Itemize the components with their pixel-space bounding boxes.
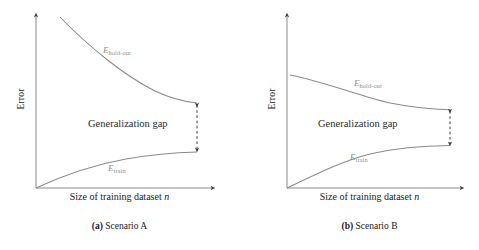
curve-label-train-subscript: train: [356, 156, 368, 163]
curve-label-hold-out-subscript: hold-out: [360, 82, 382, 89]
panel-scenario-b: Error Size of training dataset n Ehold-o…: [240, 0, 479, 250]
panel-caption-a-text: Scenario A: [105, 221, 147, 231]
curve-train: [287, 146, 450, 189]
curve-label-hold-out: Ehold-out: [354, 78, 382, 88]
curve-label-hold-out-subscript: hold-out: [109, 49, 131, 56]
panel-caption-b-text: Scenario B: [356, 221, 398, 231]
panel-caption-b-tag: (b): [342, 221, 354, 231]
curve-label-train-subscript: train: [114, 167, 126, 174]
curve-label-train: Etrain: [108, 163, 126, 173]
x-axis-label-text: Size of training dataset: [70, 191, 164, 202]
x-axis-label-variable: n: [164, 191, 169, 202]
plot-area-scenario-a: [0, 0, 239, 212]
x-axis-label-variable: n: [414, 191, 419, 202]
curve-label-train-base: E: [350, 152, 356, 162]
x-axis-label: Size of training dataset n: [0, 191, 239, 202]
x-axis-label: Size of training dataset n: [250, 191, 479, 202]
panel-caption-a-tag: (a): [92, 221, 103, 231]
curve-label-train: Etrain: [350, 152, 368, 162]
curve-label-train-base: E: [108, 163, 114, 173]
curve-label-hold-out-base: E: [354, 78, 360, 88]
y-axis-label: Error: [16, 69, 26, 129]
figure-two-scenarios: Error Size of training dataset n Ehold-o…: [0, 0, 479, 250]
panel-scenario-a: Error Size of training dataset n Ehold-o…: [0, 0, 239, 250]
generalization-gap-label: Generalization gap: [88, 118, 168, 129]
panel-caption-b: (b) Scenario B: [250, 221, 479, 231]
y-axis-label: Error: [267, 69, 277, 129]
curve-hold-out: [60, 17, 197, 103]
panel-caption-a: (a) Scenario A: [0, 221, 239, 231]
x-axis-label-text: Size of training dataset: [320, 191, 414, 202]
curve-label-hold-out-base: E: [103, 45, 109, 55]
curve-label-hold-out: Ehold-out: [103, 45, 131, 55]
generalization-gap-label: Generalization gap: [318, 118, 398, 129]
